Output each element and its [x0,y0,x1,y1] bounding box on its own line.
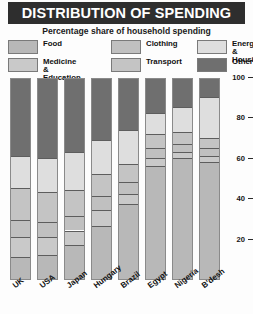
bar-segment-energy-housing [173,107,192,131]
bar-segment-medicine-education [65,231,84,245]
y-tick-100: 100 [224,78,253,87]
bar-segment-clothing [173,144,192,152]
y-tick-20: 20 [224,240,253,249]
chart-page: DISTRIBUTION OF SPENDING Percentage shar… [0,0,253,314]
bar-segment-other [92,79,111,140]
bar-segment-food [173,158,192,280]
bar-usa [37,78,58,280]
bar-bdesh [199,78,220,280]
y-tick-mark-icon [248,158,253,159]
y-tick-40: 40 [224,199,253,208]
bar-egypt [145,78,166,280]
y-tick-label: 20 [237,235,245,244]
bar-segment-other [11,79,30,156]
legend-swatch-icon [8,40,38,54]
y-tick-label: 60 [237,154,245,163]
legend-swatch-icon [111,40,141,54]
y-axis: 10080604020 [224,78,253,283]
y-tick-60: 60 [224,159,253,168]
bar-segment-food [146,166,165,280]
bar-segment-clothing [119,182,138,194]
bar-segment-medicine-education [119,194,138,204]
legend-label: Transport [146,58,182,66]
y-tick-label: 80 [237,113,245,122]
bar-segment-other [173,79,192,107]
bar-segment-food [200,162,219,280]
bar-segment-clothing [38,222,57,236]
bar-segment-other [119,79,138,130]
bar-segment-other [38,79,57,158]
bar-segment-other [146,79,165,113]
y-tick-mark-icon [248,239,253,240]
bar-segment-transport [38,192,57,222]
bar-segment-transport [173,132,192,144]
bar-segment-clothing [65,216,84,230]
y-tick-label: 100 [232,73,245,82]
bar-segment-transport [146,134,165,148]
title-bar: DISTRIBUTION OF SPENDING [8,2,245,24]
y-tick-mark-icon [248,77,253,78]
y-tick-mark-icon [248,117,253,118]
bar-nigeria [172,78,193,280]
bar-segment-energy-housing [38,158,57,192]
bar-segment-other [200,79,219,97]
bar-segment-energy-housing [200,97,219,137]
page-title: DISTRIBUTION OF SPENDING [8,2,245,24]
bar-segment-energy-housing [11,156,30,188]
bar-segment-medicine-education [11,237,30,257]
bar-segment-energy-housing [146,113,165,133]
bar-segment-medicine-education [92,210,111,226]
bar-segment-clothing [146,148,165,158]
bar-segment-transport [200,138,219,148]
chart-subtitle: Percentage share of household spending [0,26,253,36]
bar-segment-transport [92,174,111,196]
y-tick-mark-icon [248,198,253,199]
x-axis-labels: UKUSAJapanHungaryBrazilEgyptNigeriaB'des… [0,283,253,314]
legend-swatch-icon [197,58,227,72]
legend-label: Food [43,40,62,48]
legend-swatch-icon [8,58,38,72]
bar-segment-energy-housing [92,140,111,174]
y-tick-label: 40 [237,194,245,203]
bar-segment-medicine-education [146,158,165,166]
chart-legend: FoodMedicine & EducationClothingTranspor… [8,40,245,74]
bar-segment-clothing [92,196,111,210]
bar-segment-other [65,79,84,152]
bar-segment-energy-housing [65,152,84,190]
bar-segment-medicine-education [38,237,57,255]
legend-swatch-icon [197,40,227,54]
bar-hungary [91,78,112,280]
bar-segment-transport [11,188,30,220]
bar-brazil [118,78,139,280]
y-tick-80: 80 [224,118,253,127]
bar-segment-transport [119,164,138,182]
plot-area [0,78,253,283]
bar-segment-energy-housing [119,130,138,164]
bar-segment-clothing [200,148,219,156]
bar-segment-transport [65,190,84,216]
legend-swatch-icon [111,58,141,72]
bar-uk [10,78,31,280]
legend-label: Other [232,58,253,66]
bar-japan [64,78,85,280]
bar-segment-clothing [11,220,30,236]
legend-label: Clothing [146,40,178,48]
